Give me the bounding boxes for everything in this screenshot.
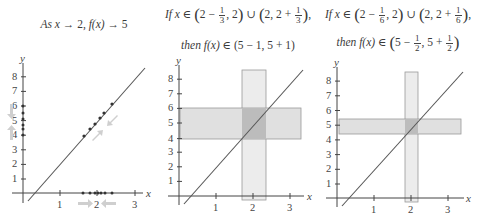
arrow-diag-down-icon (107, 115, 118, 126)
svg-text:1: 1 (213, 202, 218, 213)
svg-text:4: 4 (168, 133, 174, 144)
x-axis-label: x (145, 187, 151, 199)
plot-delta-third: 12 34 56 78 123 x y (158, 0, 318, 222)
svg-text:8: 8 (326, 75, 331, 86)
svg-text:1: 1 (326, 178, 331, 189)
x-tick-labels: 123 (371, 204, 450, 215)
x-band (405, 72, 418, 202)
arrow-diag-up-icon (92, 130, 103, 141)
y-axis-label: y (333, 56, 339, 68)
arrow-left-icon (101, 199, 116, 208)
line-markers (82, 102, 113, 137)
svg-text:2: 2 (408, 204, 413, 215)
svg-text:1: 1 (57, 199, 62, 210)
svg-text:3: 3 (132, 199, 137, 210)
svg-text:2: 2 (94, 199, 99, 210)
panel-delta-third: If x ∈ (2 − 13, 2) ∪ (2, 2 + 13), then f… (158, 0, 318, 222)
svg-text:3: 3 (168, 146, 173, 157)
svg-text:7: 7 (168, 88, 173, 99)
x-tick-labels: 123 (213, 202, 292, 213)
arrow-right-icon (78, 199, 93, 208)
x-axis-label: x (465, 192, 471, 204)
svg-text:3: 3 (326, 149, 331, 160)
svg-text:1: 1 (371, 204, 376, 215)
function-line (28, 68, 145, 201)
svg-text:2: 2 (326, 163, 331, 174)
plot-limit: 12 34 56 78 123 x y (0, 0, 158, 222)
svg-text:6: 6 (326, 105, 331, 116)
svg-text:2: 2 (168, 161, 173, 172)
x-tick-labels: 123 (57, 199, 137, 210)
svg-text:1: 1 (12, 173, 17, 184)
svg-text:8: 8 (12, 71, 17, 82)
svg-text:5: 5 (326, 119, 331, 130)
svg-text:1: 1 (168, 175, 173, 186)
svg-text:7: 7 (326, 90, 331, 101)
svg-text:4: 4 (326, 134, 332, 145)
y-band (339, 119, 461, 134)
svg-text:2: 2 (12, 158, 17, 169)
y-tick-labels: 12 34 56 78 (168, 73, 174, 186)
panel-limit: As x → 2, f(x) → 5 12 34 56 78 123 x y (0, 0, 158, 222)
svg-text:6: 6 (168, 102, 173, 113)
svg-text:3: 3 (445, 204, 450, 215)
svg-text:8: 8 (168, 73, 173, 84)
svg-text:2: 2 (250, 202, 255, 213)
panel-delta-sixth: If x ∈ (2 − 16, 2) ∪ (2, 2 + 16), then f… (318, 0, 478, 222)
y-tick-labels: 12 34 56 78 (326, 75, 332, 189)
svg-text:3: 3 (287, 202, 292, 213)
y-axis-label: y (19, 52, 25, 64)
y-axis-label: y (175, 54, 181, 66)
band-overlap (405, 119, 418, 134)
x-axis-label: x (306, 190, 312, 202)
svg-text:5: 5 (168, 117, 173, 128)
plot-delta-sixth: 12 34 56 78 123 x y (318, 0, 478, 222)
svg-text:7: 7 (12, 85, 17, 96)
svg-text:3: 3 (12, 144, 17, 155)
function-line (342, 72, 463, 206)
y-band (180, 108, 301, 139)
